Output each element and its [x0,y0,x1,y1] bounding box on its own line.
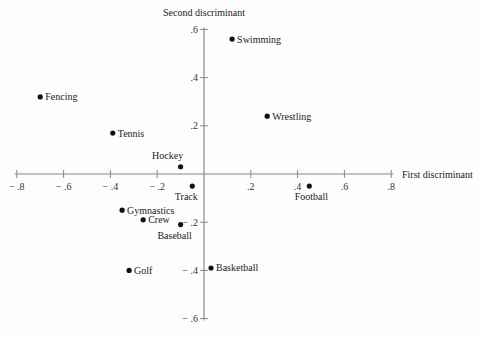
x-tick-label: .6 [341,181,349,192]
point-marker [120,208,125,213]
point-label: Golf [134,265,153,276]
y-tick-label: − .4 [182,265,198,276]
data-point-swimming: Swimming [229,34,281,45]
y-tick-label: .6 [191,24,199,35]
data-points: SwimmingWrestlingFencingTennisHockeyTrac… [38,34,329,276]
point-marker [178,164,183,169]
x-tick-label: − .8 [9,181,25,192]
point-label: Baseball [157,230,192,241]
point-marker [141,217,146,222]
y-axis-title: Second discriminant [163,7,245,18]
data-point-fencing: Fencing [38,91,78,102]
point-label: Hockey [152,150,183,161]
data-point-golf: Golf [127,265,154,276]
point-marker [127,268,132,273]
x-tick-label: − .2 [149,181,165,192]
data-point-wrestling: Wrestling [265,111,312,122]
point-label: Swimming [237,34,281,45]
point-marker [208,265,213,270]
y-tick-label: − .2 [182,217,198,228]
point-label: Fencing [45,91,77,102]
point-marker [38,94,43,99]
point-marker [229,36,234,41]
point-marker [265,114,270,119]
point-label: Tennis [118,128,145,139]
x-tick-label: .8 [387,181,395,192]
y-tick-label: .4 [191,72,199,83]
point-label: Basketball [216,262,258,273]
point-marker [178,222,183,227]
x-axis-title: First discriminant [402,169,473,180]
data-point-crew: Crew [141,214,171,225]
x-tick-label: .2 [247,181,255,192]
scatter-plot: − .8− .6− .4− .2.2.4.6.8.6.4.2− .2− .4− … [0,0,479,339]
x-tick-label: − .6 [56,181,72,192]
point-label: Wrestling [272,111,311,122]
x-tick-label: − .4 [103,181,119,192]
point-marker [110,130,115,135]
point-label: Crew [148,214,170,225]
data-point-basketball: Basketball [208,262,258,273]
y-tick-label: .2 [191,120,199,131]
point-label: Track [175,191,198,202]
data-point-track: Track [175,183,198,202]
y-tick-label: − .6 [182,313,198,324]
point-marker [307,183,312,188]
point-marker [190,183,195,188]
point-label: Football [295,191,329,202]
data-point-hockey: Hockey [152,150,183,170]
data-point-tennis: Tennis [110,128,144,139]
axes: − .8− .6− .4− .2.2.4.6.8.6.4.2− .2− .4− … [9,24,395,324]
